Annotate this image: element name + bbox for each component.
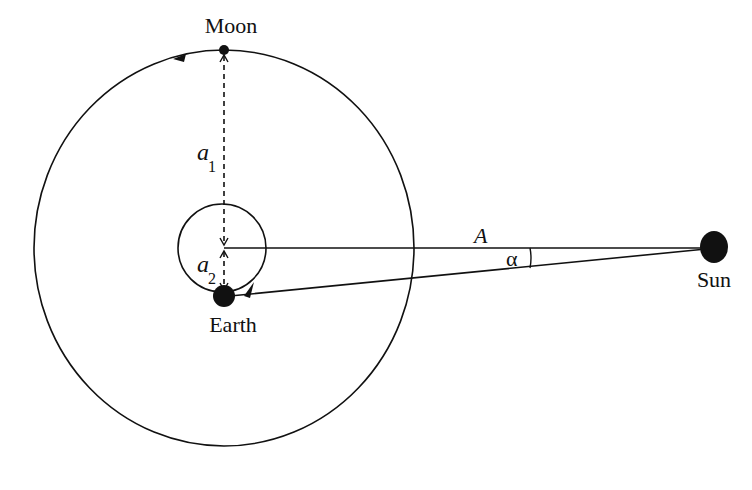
earth-label: Earth bbox=[209, 312, 257, 337]
moon-body bbox=[219, 45, 229, 55]
moon-label: Moon bbox=[205, 13, 258, 38]
earth-body bbox=[213, 285, 235, 307]
earth-moon-sun-diagram: Moon Earth Sun a 1 a 2 A α bbox=[0, 0, 752, 490]
line-earth-to-sun bbox=[230, 249, 706, 296]
distance-A-label: A bbox=[472, 223, 488, 248]
angle-alpha-label: α bbox=[506, 246, 518, 271]
sun-body bbox=[700, 231, 728, 263]
a1-subscript: 1 bbox=[208, 158, 216, 175]
a2-subscript: 2 bbox=[208, 270, 216, 287]
angle-alpha-marker bbox=[530, 248, 531, 268]
sun-label: Sun bbox=[697, 267, 731, 292]
